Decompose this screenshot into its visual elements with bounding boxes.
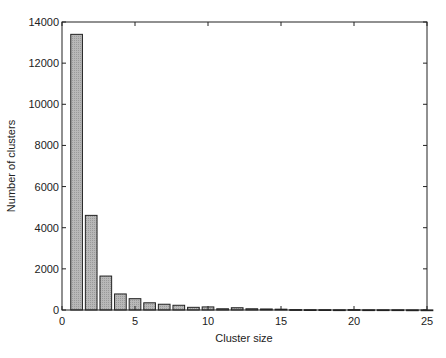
bar-size-7 [158,304,170,310]
y-axis-label: Number of clusters [5,119,17,212]
x-axis-label: Cluster size [215,332,272,344]
y-tick-label: 12000 [28,57,59,69]
plot-area: 0510152025020004000600080001000012000140… [28,16,433,327]
y-tick-label: 10000 [28,98,59,110]
y-tick-label: 2000 [35,263,59,275]
bar-size-4 [115,294,127,310]
bar-size-2 [85,215,97,310]
bar-size-1 [71,34,83,310]
x-tick-label: 20 [348,315,360,327]
y-tick-label: 8000 [35,139,59,151]
bar-chart: 0510152025020004000600080001000012000140… [0,0,446,358]
y-tick-label: 14000 [28,16,59,28]
x-tick-label: 10 [202,315,214,327]
x-tick-label: 25 [421,315,433,327]
y-tick-label: 6000 [35,181,59,193]
bar-size-6 [144,303,156,310]
x-tick-label: 5 [132,315,138,327]
x-tick-label: 0 [59,315,65,327]
y-tick-label: 4000 [35,222,59,234]
x-tick-label: 15 [275,315,287,327]
axes-frame [62,22,427,310]
y-tick-label: 0 [53,304,59,316]
bar-size-3 [100,276,112,310]
bar-size-8 [173,305,185,310]
